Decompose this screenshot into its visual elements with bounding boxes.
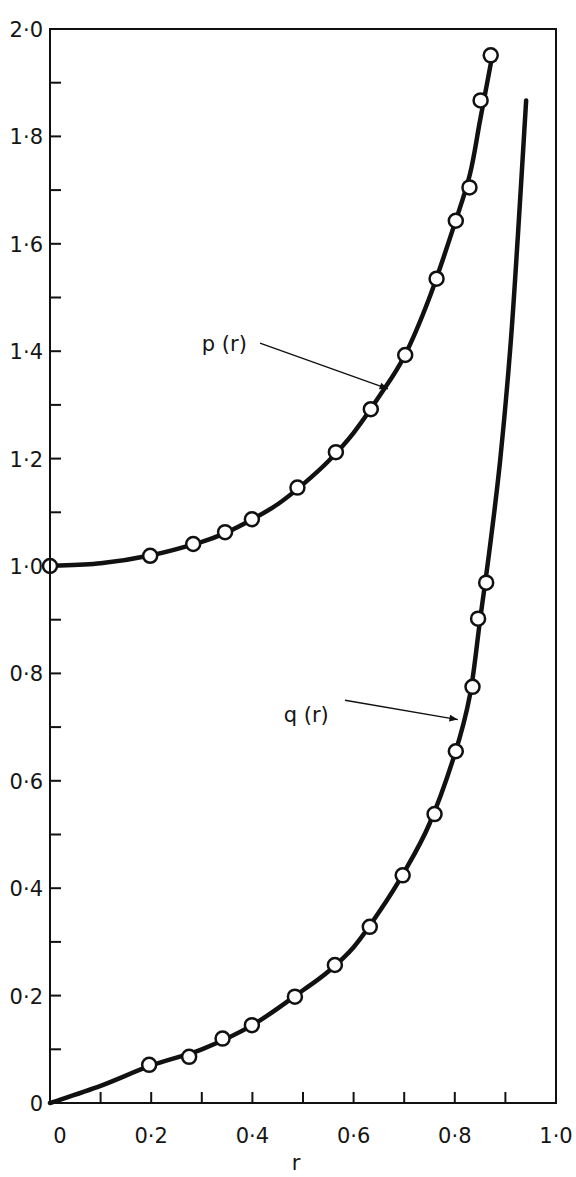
data-point-marker [364, 402, 378, 416]
x-tick-label: 1·0 [539, 1124, 572, 1148]
y-tick-label: 0 [30, 1092, 43, 1116]
pointer-arrow [260, 343, 388, 389]
data-point-marker [466, 680, 480, 694]
x-tick-label: 0 [53, 1124, 66, 1148]
data-point-marker [474, 93, 488, 107]
x-axis-title: r [292, 1151, 301, 1175]
data-point-marker [396, 868, 410, 882]
series-label-q: q (r) [284, 703, 329, 727]
y-tick-label: 0·2 [10, 985, 43, 1009]
series-line-q [50, 100, 526, 1103]
series-curves [50, 53, 526, 1103]
y-tick-label: 1·2 [10, 448, 43, 472]
y-tick-label: 0·8 [10, 662, 43, 686]
y-tick-label: 1·0 [10, 555, 43, 579]
data-point-marker [218, 525, 232, 539]
data-point-marker [245, 1018, 259, 1032]
y-tick-label: 0·6 [10, 770, 43, 794]
data-point-marker [430, 272, 444, 286]
data-point-marker [484, 48, 498, 62]
data-point-marker [288, 990, 302, 1004]
data-point-marker [245, 512, 259, 526]
data-point-marker [143, 549, 157, 563]
data-point-marker [142, 1058, 156, 1072]
data-point-marker [398, 348, 412, 362]
data-point-marker [449, 214, 463, 228]
data-point-marker [186, 537, 200, 551]
data-point-marker [449, 744, 463, 758]
pointer-arrow [345, 700, 458, 719]
data-point-marker [363, 920, 377, 934]
series-annotations: p (r)q (r) [202, 332, 458, 727]
data-point-marker [462, 180, 476, 194]
data-point-marker [182, 1050, 196, 1064]
chart-canvas: 00·20·40·60·81·0 00·20·40·60·81·01·21·41… [0, 0, 576, 1177]
series-label-p: p (r) [202, 332, 247, 356]
data-point-marker [479, 576, 493, 590]
x-tick-label: 0·6 [337, 1124, 370, 1148]
x-axis-ticks: 00·20·40·60·81·0 [53, 1092, 572, 1148]
y-tick-label: 1·4 [10, 340, 43, 364]
data-point-marker [216, 1032, 230, 1046]
data-point-marker [471, 612, 485, 626]
y-tick-label: 0·4 [10, 877, 43, 901]
x-tick-label: 0·4 [236, 1124, 269, 1148]
data-point-marker [329, 445, 343, 459]
data-point-marker [290, 481, 304, 495]
x-tick-label: 0·2 [134, 1124, 167, 1148]
data-point-marker [328, 958, 342, 972]
plot-frame [50, 29, 556, 1103]
data-point-marker [428, 807, 442, 821]
plot-border [50, 29, 556, 1103]
x-tick-label: 0·8 [438, 1124, 471, 1148]
y-tick-label: 2·0 [10, 18, 43, 42]
y-tick-label: 1·6 [10, 233, 43, 257]
y-tick-label: 1·8 [10, 125, 43, 149]
series-line-p [50, 53, 493, 566]
